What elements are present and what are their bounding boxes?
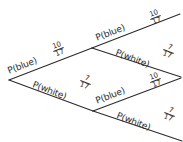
probability-tree-diagram: P(blue) 10 17 P(white) 7 17 P(blue) 10 1… xyxy=(0,0,183,142)
